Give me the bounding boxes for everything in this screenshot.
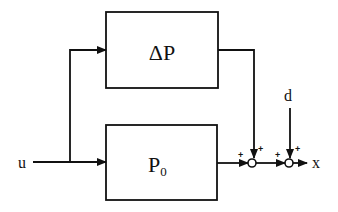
delta-p-to-sum1-arrow xyxy=(218,50,254,158)
block-diagram: ΔP P0 u + + d + + x xyxy=(0,0,338,212)
p0-label: P0 xyxy=(148,152,167,179)
sum2-sign-left: + xyxy=(275,150,280,160)
summing-junction-1 xyxy=(248,159,256,167)
delta-p-label: ΔP xyxy=(149,40,175,65)
input-u-label: u xyxy=(18,154,26,171)
sum2-sign-top: + xyxy=(295,144,300,154)
output-x-label: x xyxy=(312,154,320,171)
sum1-sign-left: + xyxy=(238,150,243,160)
disturbance-d-label: d xyxy=(284,87,292,104)
u-to-delta-p-arrow xyxy=(70,50,106,162)
sum1-sign-top: + xyxy=(258,144,263,154)
delta-p-block: ΔP xyxy=(106,12,218,88)
p0-block: P0 xyxy=(106,125,217,200)
summing-junction-2 xyxy=(285,159,293,167)
